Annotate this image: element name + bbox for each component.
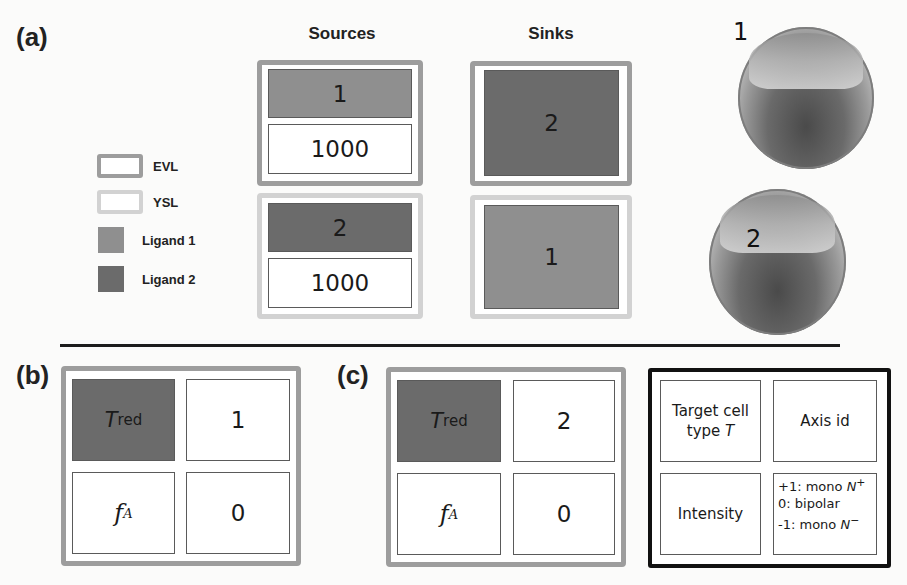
panel-c-target-sub: red xyxy=(443,412,468,430)
embryo-1-image xyxy=(738,27,874,169)
legend-ysl-label: YSL xyxy=(153,195,178,210)
panel-b-intensity-cell: fA xyxy=(72,472,175,554)
ligand1-swatch xyxy=(98,227,124,253)
panel-c-intensity-cell: fA xyxy=(397,473,501,555)
panel-c-intensity-value: 0 xyxy=(513,473,615,555)
sink-1-box: 2 xyxy=(470,61,632,186)
sink-1-ligand: 2 xyxy=(484,70,619,176)
ligand2-swatch xyxy=(98,266,124,292)
sinks-heading: Sinks xyxy=(470,24,632,44)
legend-ligand2: Ligand 2 xyxy=(98,266,195,292)
source-2-amount: 1000 xyxy=(268,258,412,308)
panel-b-target-symbol: T xyxy=(105,408,118,432)
embryo-2-cap xyxy=(720,195,835,253)
key-target-cell: Target cell type T xyxy=(660,380,761,462)
legend-evl: EVL xyxy=(97,154,178,178)
panel-c-target-symbol: T xyxy=(430,409,443,433)
embryo-1-cap xyxy=(749,33,863,90)
ysl-swatch xyxy=(97,190,143,214)
panel-b-axis-cell: 1 xyxy=(186,379,290,461)
source-1-amount: 1000 xyxy=(268,124,412,174)
legend-ligand1: Ligand 1 xyxy=(98,227,195,253)
key-target-line1: Target cell xyxy=(672,401,749,421)
legend-ysl: YSL xyxy=(97,190,178,214)
sink-2-ligand: 1 xyxy=(484,205,619,309)
embryo-2-label: 2 xyxy=(746,225,761,253)
legend-evl-label: EVL xyxy=(153,159,178,174)
key-box: Target cell type T Axis id Intensity +1:… xyxy=(648,368,891,568)
legend-ligand2-label: Ligand 2 xyxy=(142,272,195,287)
key-modes-cell: +1: mono N+ 0: bipolar -1: mono N− xyxy=(773,473,877,555)
source-2-ligand: 2 xyxy=(268,203,412,252)
panel-c-box: Tred 2 fA 0 xyxy=(386,367,626,567)
key-mode-plus: +1: mono N+ xyxy=(778,474,865,495)
panel-b-label: (b) xyxy=(16,360,49,391)
embryo-1-label: 1 xyxy=(733,18,748,46)
embryo-2-image xyxy=(709,189,846,335)
evl-swatch xyxy=(97,154,143,178)
source-1-box: 1 1000 xyxy=(257,60,423,186)
panel-c-axis-cell: 2 xyxy=(513,380,615,462)
source-2-box: 2 1000 xyxy=(257,193,423,319)
panel-a-label: (a) xyxy=(16,22,48,53)
key-intensity-cell: Intensity xyxy=(660,473,761,555)
sink-2-box: 1 xyxy=(470,195,632,319)
key-target-symbol: T xyxy=(725,422,734,440)
key-mode-minus: -1: mono N− xyxy=(778,512,859,533)
section-divider xyxy=(60,344,840,347)
panel-b-target-cell: Tred xyxy=(72,379,175,461)
panel-b-intensity-symbol: f xyxy=(114,499,123,527)
panel-b-intensity-value: 0 xyxy=(186,472,290,554)
legend-ligand1-label: Ligand 1 xyxy=(142,233,195,248)
key-target-line2: type T xyxy=(687,421,734,441)
key-mode-bipolar: 0: bipolar xyxy=(778,495,840,512)
panel-c-label: (c) xyxy=(337,360,369,391)
sources-heading: Sources xyxy=(262,24,422,44)
panel-c-target-cell: Tred xyxy=(397,380,501,462)
panel-b-intensity-sup: A xyxy=(123,506,132,521)
key-axis-cell: Axis id xyxy=(773,380,877,462)
panel-b-target-sub: red xyxy=(118,411,143,429)
panel-b-box: Tred 1 fA 0 xyxy=(61,366,301,566)
panel-c-intensity-sup: A xyxy=(449,507,458,522)
source-1-ligand: 1 xyxy=(268,69,412,118)
panel-c-intensity-symbol: f xyxy=(440,500,449,528)
